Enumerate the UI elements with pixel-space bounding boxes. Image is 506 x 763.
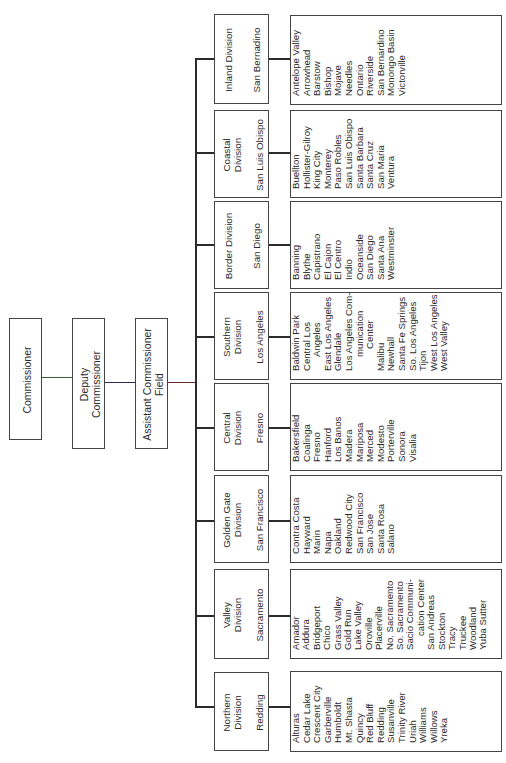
link-valley bbox=[269, 615, 290, 617]
division-name: Northern bbox=[221, 673, 232, 752]
division-name: Division bbox=[232, 111, 243, 199]
office-item: Yuba Sutter bbox=[478, 568, 488, 650]
office-item: San Luis Obispo bbox=[344, 109, 355, 189]
assistant-line-2: Field bbox=[153, 373, 165, 396]
office-item: Buellton bbox=[291, 109, 302, 189]
division-name: Division bbox=[232, 384, 243, 472]
deputy-line-1: Deputy bbox=[78, 368, 90, 401]
branch-northern bbox=[195, 706, 214, 708]
office-item: Alturas bbox=[291, 669, 302, 743]
branch-golden-gate bbox=[195, 520, 214, 522]
division-name: Central bbox=[221, 384, 232, 472]
division-name: Coastal bbox=[221, 111, 232, 199]
division-name: Division bbox=[232, 293, 243, 381]
division-box-southern: SouthernDivision Los Angeles bbox=[214, 292, 269, 380]
division-box-border: Border Division San Diego bbox=[214, 201, 269, 289]
office-list-golden-gate: Contra Costa Hayward Marin Napa Oakland … bbox=[290, 475, 502, 563]
office-list-central: Bakersfield Coalinga Fresno Hanford Los … bbox=[290, 383, 502, 471]
division-name: Inland Division bbox=[223, 15, 234, 105]
office-item: Sonora bbox=[397, 382, 408, 462]
link-northern bbox=[269, 706, 290, 708]
deputy-commissioner-box: Deputy Commissioner bbox=[72, 318, 105, 449]
office-item: Mt. Shasta bbox=[344, 669, 355, 743]
division-hq: Sacramento bbox=[254, 570, 265, 660]
division-hq: San Luis Obispo bbox=[254, 111, 265, 199]
office-item: West Valley bbox=[439, 291, 450, 371]
office-item: Santa Fe Springs bbox=[397, 291, 408, 371]
office-item: Salano bbox=[386, 474, 397, 554]
division-name: Golden Gate bbox=[221, 476, 232, 564]
link-golden-gate bbox=[269, 520, 290, 522]
office-list-coastal: Buellton Hollister-Gilroy King City Mont… bbox=[290, 110, 502, 198]
office-item: Needles bbox=[344, 14, 355, 96]
branch-southern bbox=[195, 336, 214, 338]
division-box-coastal: CoastalDivision San Luis Obispo bbox=[214, 110, 269, 198]
division-name: Southern bbox=[221, 293, 232, 381]
office-list-border: Banning Blythe Capistrano El Cajon El Ce… bbox=[290, 201, 502, 289]
division-box-central: CentralDivision Fresno bbox=[214, 383, 269, 471]
office-item: Redwood City bbox=[344, 474, 355, 554]
branch-border bbox=[195, 244, 214, 246]
division-name: Division bbox=[232, 673, 243, 752]
commissioner-label: Commissioner bbox=[21, 346, 33, 413]
branch-coastal bbox=[195, 152, 214, 154]
link-coastal bbox=[269, 152, 290, 154]
division-name: Border Division bbox=[223, 202, 234, 290]
office-item: Madera bbox=[344, 382, 355, 462]
deputy-line-2: Commissioner bbox=[90, 351, 102, 418]
division-box-northern: NorthernDivision Redding bbox=[214, 672, 269, 751]
division-hq: San Diego bbox=[251, 202, 262, 290]
division-bus-line bbox=[195, 58, 197, 707]
office-list-northern: Alturas Cedar Lake Crescent City Garberv… bbox=[290, 671, 502, 752]
office-item: Baldwin Park bbox=[291, 291, 302, 371]
office-item: Contra Costa bbox=[291, 474, 302, 554]
division-box-inland: Inland Division San Bernadino bbox=[214, 14, 269, 104]
division-name: Division bbox=[232, 476, 243, 564]
office-item: Los Angeles Com- bbox=[344, 291, 355, 371]
office-item: Tracy bbox=[447, 568, 457, 650]
office-item: Bakersfield bbox=[291, 382, 302, 462]
office-item: Ventura bbox=[386, 109, 397, 189]
office-item: Yreka bbox=[439, 669, 450, 743]
assistant-commissioner-box: Assistant Commissioner Field bbox=[135, 318, 168, 449]
office-list-inland: Antelope Valley Arrowhead Barstow Bishop… bbox=[290, 15, 502, 105]
office-item: Indio bbox=[344, 200, 355, 280]
division-hq: San Bernadino bbox=[251, 15, 262, 105]
division-box-valley: ValleyDivision Sacramento bbox=[214, 569, 269, 659]
branch-central bbox=[195, 427, 214, 429]
division-hq: Fresno bbox=[254, 384, 265, 472]
link-inland bbox=[269, 58, 290, 60]
division-name: Division bbox=[232, 570, 243, 660]
office-item: Victorville bbox=[397, 14, 408, 96]
link-central bbox=[269, 427, 290, 429]
assistant-line-1: Assistant Commissioner bbox=[141, 328, 153, 441]
division-hq: Los Angeles bbox=[254, 293, 265, 381]
division-box-golden-gate: Golden GateDivision San Francisco bbox=[214, 475, 269, 563]
division-hq: San Francisco bbox=[254, 476, 265, 564]
link-border bbox=[269, 244, 290, 246]
office-item: Visalia bbox=[408, 382, 419, 462]
branch-inland bbox=[195, 58, 214, 60]
connector-deputy-assistant bbox=[105, 382, 135, 383]
office-list-valley: Amador Addura Bridgeport Chico Grass Val… bbox=[290, 569, 502, 659]
office-item: Westminster bbox=[386, 200, 397, 280]
connector-commissioner-deputy bbox=[42, 377, 72, 378]
office-item: Trinity River bbox=[397, 669, 408, 743]
office-item: Antelope Valley bbox=[291, 14, 302, 96]
link-southern bbox=[269, 336, 290, 338]
office-list-southern: Baldwin Park Central Los Angeles East Lo… bbox=[290, 292, 502, 380]
office-item: Banning bbox=[291, 200, 302, 280]
branch-valley bbox=[195, 615, 214, 617]
commissioner-box: Commissioner bbox=[9, 318, 42, 440]
division-hq: Redding bbox=[254, 673, 265, 752]
connector-assistant-bus bbox=[168, 382, 195, 383]
division-name: Valley bbox=[221, 570, 232, 660]
